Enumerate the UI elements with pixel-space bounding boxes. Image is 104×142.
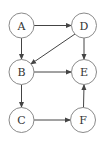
node-b-label: B	[17, 66, 25, 79]
graph-diagram: A D B E C F	[0, 0, 104, 142]
edge-d-to-b	[31, 34, 75, 64]
node-f: F	[71, 108, 96, 133]
node-a: A	[9, 13, 34, 38]
node-e-label: E	[80, 66, 88, 79]
edge-f-to-e	[84, 85, 85, 108]
node-b: B	[9, 60, 34, 85]
node-d: D	[72, 13, 97, 38]
node-e: E	[72, 60, 97, 85]
node-c: C	[9, 108, 34, 133]
node-d-label: D	[80, 20, 89, 33]
node-c-label: C	[17, 114, 25, 127]
node-a-label: A	[17, 20, 27, 33]
node-f-label: F	[79, 114, 87, 127]
